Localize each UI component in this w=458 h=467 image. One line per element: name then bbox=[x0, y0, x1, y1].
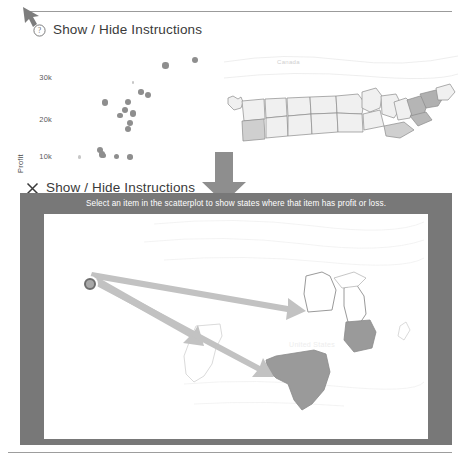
svg-text:?: ? bbox=[38, 26, 42, 35]
instruction-banner-text: Select an item in the scatterplot to sho… bbox=[20, 193, 452, 214]
scatter-point[interactable] bbox=[130, 110, 137, 117]
canada-label: Canada bbox=[277, 59, 300, 65]
state-ohio bbox=[344, 320, 376, 352]
bottom-map[interactable] bbox=[44, 214, 428, 439]
selected-point-marker[interactable] bbox=[84, 278, 96, 290]
screenshot-root: ? Show / Hide Instructions Profit 30k 20… bbox=[0, 0, 458, 467]
scatter-point[interactable] bbox=[145, 92, 151, 98]
scatterplot[interactable]: Profit 30k 20k 10k bbox=[18, 45, 223, 170]
scatter-point[interactable] bbox=[125, 99, 131, 105]
united-states-label: United States bbox=[282, 341, 342, 350]
y-axis-title: Profit bbox=[16, 154, 25, 173]
top-map: Canada bbox=[224, 44, 458, 172]
y-tick-10k: 10k bbox=[30, 152, 52, 161]
scatter-point[interactable] bbox=[114, 154, 119, 159]
scatter-point[interactable] bbox=[102, 99, 108, 105]
scatter-point[interactable] bbox=[132, 81, 134, 83]
show-hide-instructions-label: Show / Hide Instructions bbox=[53, 22, 202, 37]
scatter-point[interactable] bbox=[117, 113, 123, 119]
state-michigan bbox=[344, 284, 366, 326]
scatter-point[interactable] bbox=[125, 126, 131, 132]
top-divider bbox=[28, 11, 452, 12]
y-tick-30k: 30k bbox=[30, 73, 52, 82]
state-minnesota bbox=[304, 272, 336, 312]
y-tick-20k: 20k bbox=[30, 115, 52, 124]
state-east-sliver bbox=[398, 322, 410, 340]
scatter-point[interactable] bbox=[138, 89, 144, 95]
bottom-divider bbox=[8, 452, 452, 453]
state-texas bbox=[266, 350, 330, 410]
united-states-label-text: United States bbox=[289, 341, 335, 348]
scatter-point[interactable] bbox=[101, 153, 106, 158]
state-michigan-up bbox=[334, 272, 366, 288]
question-circle-icon: ? bbox=[33, 23, 46, 36]
scatter-point[interactable] bbox=[127, 154, 133, 160]
scatter-point[interactable] bbox=[122, 107, 128, 113]
scatter-point[interactable] bbox=[162, 62, 168, 68]
scatter-point[interactable] bbox=[192, 57, 198, 63]
scatter-point[interactable] bbox=[78, 155, 81, 158]
show-hide-instructions-toggle-collapsed[interactable]: ? Show / Hide Instructions bbox=[33, 22, 202, 37]
